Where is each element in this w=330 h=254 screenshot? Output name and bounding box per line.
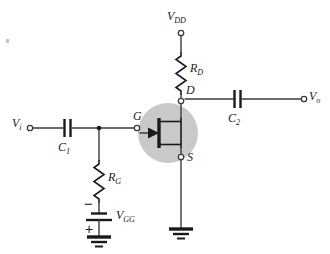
- label-vi: Vi: [12, 117, 21, 129]
- label-node-gate: G: [133, 110, 142, 122]
- label-c2: C2: [228, 112, 240, 124]
- label-rd: RD: [190, 62, 203, 74]
- terminal-vi-circle: [27, 125, 32, 130]
- node-drain-circle: [178, 98, 183, 103]
- battery-positive-sign: +: [85, 222, 93, 236]
- label-node-drain: D: [186, 84, 195, 96]
- battery-negative-sign: −: [84, 196, 93, 211]
- label-node-source: S: [187, 151, 193, 163]
- node-gate-circle: [134, 125, 139, 130]
- label-rg: RG: [108, 171, 121, 183]
- scan-artifact-speck: [6, 39, 9, 43]
- label-vo: Vo: [309, 90, 320, 102]
- circuit-diagram-canvas: .wire { stroke: #3c3c3c; stroke-width: 1…: [0, 0, 330, 254]
- terminal-vdd-circle: [178, 30, 183, 35]
- terminal-vo-circle: [301, 96, 306, 101]
- schematic-svg: .wire { stroke: #3c3c3c; stroke-width: 1…: [0, 0, 330, 254]
- label-c1: C1: [58, 141, 70, 153]
- label-vgg: VGG: [116, 209, 135, 221]
- resistor-rd-zigzag: [176, 52, 186, 95]
- label-vdd: VDD: [167, 10, 186, 22]
- resistor-rg-zigzag: [94, 160, 104, 203]
- node-source-circle: [178, 154, 183, 159]
